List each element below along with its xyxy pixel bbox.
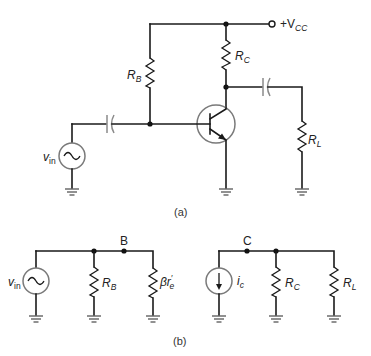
circuit-diagram: +VCC RB RC RL [0,0,371,356]
rc-resistor [272,267,280,297]
ground-icon [65,189,79,195]
rb-label: RB [102,276,117,292]
rl-resistor [298,121,306,152]
rl-resistor [330,267,338,297]
output-wire-right [268,87,302,121]
ground-icon [219,189,233,195]
ic-label: ic [237,274,245,290]
rc-label: RC [285,276,301,292]
rb-label: RB [127,68,142,84]
node-b-dot [121,248,126,253]
node-b-label: B [120,234,128,248]
ground-icon [295,189,309,195]
ground-icon [146,316,160,322]
node-c-dot [244,248,249,253]
vcc-label: +VCC [280,17,308,33]
ground-icon [87,316,101,322]
vin-label: vin [8,275,21,291]
part-a-circuit: +VCC RB RC RL [43,17,322,218]
beta-re-resistor [149,268,157,298]
vcc-terminal [269,21,275,27]
caption-b: (b) [173,335,186,347]
rc-label: RC [235,49,251,65]
ground-icon [327,316,341,322]
rl-label: RL [308,133,322,149]
part-b-base-circuit: B vin RB βr′e [8,234,174,322]
rc-resistor [222,40,230,70]
node-c-label: C [243,234,252,248]
vin-label: vin [43,150,56,166]
rb-resistor [90,267,98,297]
part-b-collector-circuit: C ic RC RL [206,234,357,322]
rb-resistor [146,58,154,88]
ground-icon [212,316,226,322]
rl-label: RL [343,276,357,292]
ground-icon [269,316,283,322]
ground-icon [29,316,43,322]
beta-re-label: βr′e [159,273,174,291]
caption-a: (a) [174,206,187,218]
